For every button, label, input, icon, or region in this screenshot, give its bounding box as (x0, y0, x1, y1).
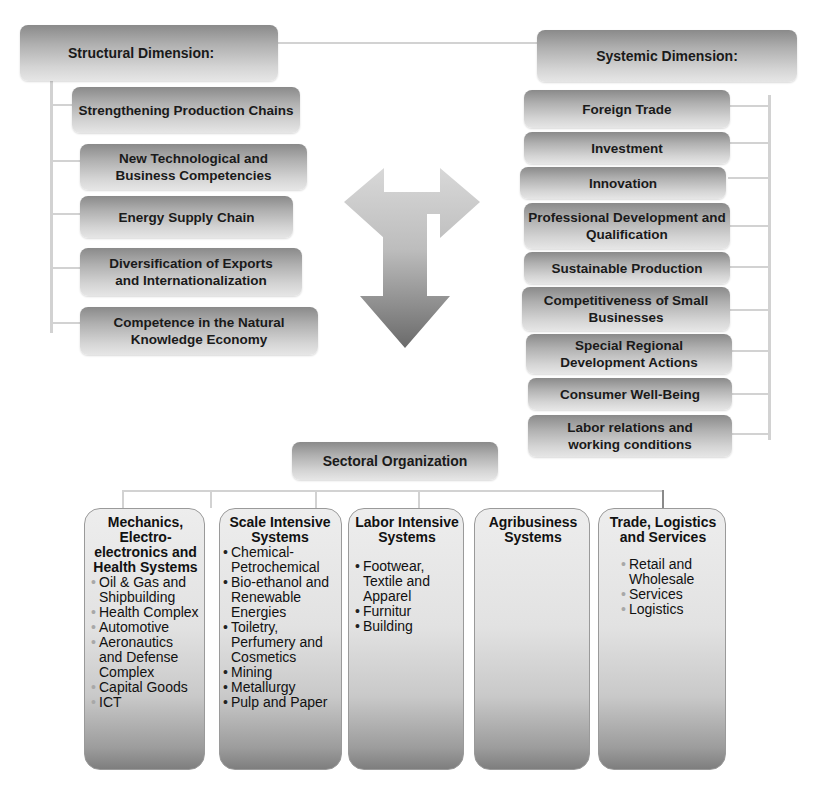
connector-structural-spine (50, 75, 53, 333)
structural-item-label: Energy Supply Chain (119, 209, 255, 226)
structural-item: Strengthening Production Chains (72, 87, 300, 133)
sector-list-item: Metallurgy (223, 680, 337, 695)
sector-list-item: Footwear, Textile and Apparel (355, 559, 459, 604)
sector-item-list: Oil & Gas and Shipbuilding Health Comple… (91, 575, 200, 710)
systemic-dimension-header: Systemic Dimension: (537, 30, 797, 82)
sector-title: Labor Intensive Systems (355, 515, 459, 545)
structural-item: Competence in the Natural Knowledge Econ… (80, 307, 318, 355)
connector-sector-drop (122, 490, 124, 508)
sector-card-agribusiness: Agribusiness Systems (474, 508, 590, 770)
sectoral-organization-header: Sectoral Organization (292, 442, 498, 480)
structural-item-label: Competence in the Natural Knowledge Econ… (99, 314, 299, 348)
connector-structural-branch (50, 213, 80, 215)
sector-card-mechanics: Mechanics, Electro-electronics and Healt… (84, 508, 205, 770)
sector-card-trade-logistics: Trade, Logistics and Services Retail and… (598, 508, 726, 770)
connector-structural-branch (50, 104, 72, 106)
sector-list-item: Furnitur (355, 604, 459, 619)
structural-item: Energy Supply Chain (80, 196, 293, 238)
sector-list-item: Toiletry, Perfumery and Cosmetics (223, 620, 337, 665)
sector-item-list: Footwear, Textile and Apparel Furnitur B… (355, 559, 459, 634)
connector-sector-drop (210, 490, 212, 508)
connector-systemic-branch (728, 393, 770, 395)
systemic-item: Sustainable Production (524, 252, 730, 284)
structural-item: Diversification of Exports and Internati… (80, 248, 302, 296)
structural-item-label: Strengthening Production Chains (78, 102, 293, 119)
structural-dimension-title: Structural Dimension: (68, 45, 214, 62)
sector-title: Mechanics, Electro-electronics and Healt… (91, 515, 200, 575)
sectoral-organization-title: Sectoral Organization (323, 453, 468, 470)
sector-title: Trade, Logistics and Services (605, 515, 721, 545)
connector-sector-drop (418, 490, 420, 508)
systemic-item-label: Consumer Well-Being (560, 386, 700, 403)
systemic-item-label: Innovation (589, 175, 657, 192)
sector-list-item: Capital Goods (91, 680, 200, 695)
sector-list-item: Logistics (621, 602, 721, 617)
systemic-item-label: Sustainable Production (552, 260, 703, 277)
sector-list-item: Retail and Wholesale (621, 557, 721, 587)
systemic-item-label: Investment (591, 140, 662, 157)
connector-structural-to-systemic (276, 42, 538, 44)
connector-systemic-branch (728, 105, 770, 107)
sector-list-item: Mining (223, 665, 337, 680)
connector-systemic-branch (728, 142, 770, 144)
connector-systemic-branch (728, 266, 770, 268)
connector-systemic-branch (728, 350, 770, 352)
connector-systemic-branch (728, 309, 770, 311)
structural-item-label: New Technological and Business Competenc… (104, 150, 284, 184)
sector-list-item: Automotive (91, 620, 200, 635)
sector-card-labor-intensive: Labor Intensive Systems Footwear, Textil… (348, 508, 464, 770)
systemic-item-label: Foreign Trade (582, 101, 671, 118)
sector-list-item: Health Complex (91, 605, 200, 620)
systemic-item: Competitiveness of Small Businesses (522, 287, 730, 331)
systemic-item: Professional Development and Qualificati… (524, 203, 730, 249)
connector-sector-drop (662, 490, 664, 508)
connector-systemic-branch (728, 177, 770, 179)
systemic-item-label: Professional Development and Qualificati… (524, 209, 730, 243)
systemic-item: Labor relations and working conditions (528, 415, 732, 457)
systemic-item: Investment (524, 132, 730, 164)
systemic-item-label: Competitiveness of Small Businesses (522, 292, 730, 326)
sector-title: Agribusiness Systems (481, 515, 585, 545)
t-shaped-three-way-arrow-icon (342, 166, 482, 356)
sector-list-item: Pulp and Paper (223, 695, 337, 710)
connector-sector-drop (315, 490, 317, 508)
connector-structural-branch (50, 267, 80, 269)
sector-list-item: ICT (91, 695, 200, 710)
systemic-item: Consumer Well-Being (528, 378, 732, 410)
sector-list-item: Services (621, 587, 721, 602)
sector-list-item: Oil & Gas and Shipbuilding (91, 575, 200, 605)
structural-item: New Technological and Business Competenc… (80, 144, 307, 190)
connector-structural-branch (50, 322, 80, 324)
structural-dimension-header: Structural Dimension: (20, 25, 278, 81)
systemic-dimension-title: Systemic Dimension: (596, 48, 738, 65)
systemic-item: Special Regional Development Actions (526, 334, 732, 374)
systemic-item: Foreign Trade (524, 90, 730, 128)
connector-sectoral-bus (122, 490, 662, 492)
connector-structural-branch (50, 160, 80, 162)
connector-systemic-branch (728, 225, 770, 227)
sector-list-item: Building (355, 619, 459, 634)
sector-list-item: Chemical-Petrochemical (223, 545, 337, 575)
sector-card-scale-intensive: Scale Intensive Systems Chemical-Petroch… (219, 508, 342, 770)
sector-list-item: Aeronautics and Defense Complex (91, 635, 200, 680)
systemic-item: Innovation (520, 167, 726, 199)
systemic-item-label: Special Regional Development Actions (544, 337, 714, 371)
structural-item-label: Diversification of Exports and Internati… (96, 255, 286, 289)
connector-systemic-branch (728, 433, 770, 435)
sector-title: Scale Intensive Systems (223, 515, 337, 545)
sector-list-item: Bio-ethanol and Renewable Energies (223, 575, 337, 620)
systemic-item-label: Labor relations and working conditions (555, 419, 705, 453)
sector-item-list: Chemical-Petrochemical Bio-ethanol and R… (223, 545, 337, 710)
sector-item-list: Retail and Wholesale Services Logistics (605, 557, 721, 617)
